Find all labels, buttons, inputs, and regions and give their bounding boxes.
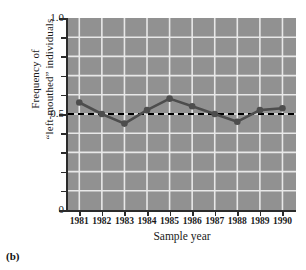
data-point-1982 xyxy=(99,111,106,118)
x-axis-spine xyxy=(66,210,296,212)
chart-canvas xyxy=(68,18,296,210)
y-axis-tick-labels: 1.00.50 xyxy=(36,0,64,270)
panel-caption: (b) xyxy=(6,250,19,262)
series-markers xyxy=(76,95,286,127)
data-point-1989 xyxy=(257,107,264,114)
figure-panel-b: Frequency of “left-mouthed” individuals … xyxy=(0,0,306,270)
data-point-1981 xyxy=(76,99,83,106)
data-point-1988 xyxy=(234,118,241,125)
data-point-1985 xyxy=(166,95,173,102)
data-point-1984 xyxy=(144,107,151,114)
data-point-1986 xyxy=(189,103,196,110)
data-point-1987 xyxy=(211,111,218,118)
x-axis-tick-label-1990: 1990 xyxy=(267,216,297,226)
x-axis-title: Sample year xyxy=(68,230,296,242)
x-axis-tick-labels: 1981198219831984198519861987198819891990 xyxy=(68,216,296,230)
y-axis-spine xyxy=(66,18,68,211)
data-point-1990 xyxy=(279,105,286,112)
plot-area xyxy=(68,18,296,210)
data-point-1983 xyxy=(121,120,128,127)
series-line xyxy=(79,99,282,124)
